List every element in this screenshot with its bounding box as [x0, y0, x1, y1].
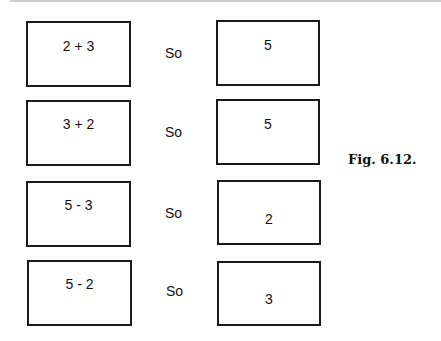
expression-text: 5 - 3 [28, 197, 129, 213]
connector-label: So [165, 205, 182, 221]
connector-label: So [165, 45, 182, 61]
expression-box-2: 3 + 2 [26, 100, 131, 166]
top-divider [10, 0, 441, 2]
figure-caption: Fig. 6.12. [348, 152, 417, 168]
result-text: 5 [218, 37, 318, 53]
expression-text: 3 + 2 [28, 116, 129, 132]
expression-box-1: 2 + 3 [26, 21, 131, 87]
expression-text: 5 - 2 [29, 276, 130, 292]
expression-box-3: 5 - 3 [26, 181, 131, 247]
expression-text: 2 + 3 [28, 38, 129, 54]
result-box-2: 5 [216, 99, 320, 165]
result-box-3: 2 [217, 180, 321, 245]
result-text: 2 [219, 211, 319, 227]
result-text: 5 [218, 116, 318, 132]
expression-box-4: 5 - 2 [27, 260, 132, 326]
connector-label: So [165, 124, 182, 140]
result-text: 3 [219, 291, 319, 307]
result-box-4: 3 [217, 261, 321, 326]
result-box-1: 5 [216, 20, 320, 86]
connector-label: So [166, 283, 183, 299]
